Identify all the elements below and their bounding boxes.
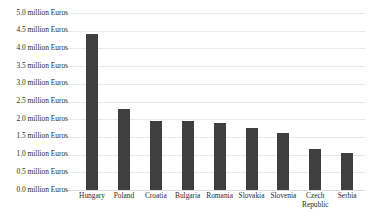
bar-chart: 5.0 million Euros4.5 million Euros4.0 mi… [0,0,371,222]
bar [246,128,258,190]
x-axis-tick-label: Serbia [324,192,370,201]
x-axis-tick-label-line: Republic [292,201,338,210]
bar [309,149,321,190]
bar [150,121,162,190]
x-axis-tick-label-line: Poland [114,191,135,200]
bars-group [0,0,371,222]
bar [341,153,353,190]
bar [182,121,194,190]
x-axis-tick-label-line: Serbia [338,191,357,200]
bar [86,34,98,190]
bar [277,133,289,190]
bar [118,109,130,190]
x-axis-tick-label-line: Czech [306,191,324,200]
bar [214,123,226,190]
x-axis-tick-label-line: Croatia [145,191,167,200]
